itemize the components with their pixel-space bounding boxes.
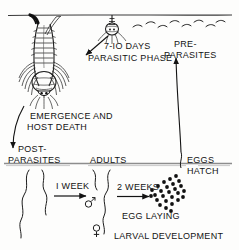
label-preparasites-line1: PRE- [174,40,197,49]
label-postparasites-line1: POST- [18,145,47,154]
post-parasite-worms [20,170,47,238]
life-cycle-diagram: 7-IO DAYS PARASITIC PHASE PRE- PARASITES… [0,0,239,250]
label-parasitic-phase: PARASITIC PHASE [88,54,172,63]
label-eggs-line2: HATCH [187,167,219,176]
label-preparasites-line2: PARASITES [164,51,217,60]
label-one-week: I WEEK [56,182,89,191]
label-emergence-line1: EMERGENCE AND [30,112,113,121]
label-adults: ADULTS [90,156,127,165]
emergence-arrow [13,106,24,148]
male-symbol-glyph [85,198,95,208]
label-duration-parasitic: 7-IO DAYS [104,42,151,51]
label-postparasites-line2: PARASITES [8,156,61,165]
label-emergence-line2: HOST DEATH [27,123,87,132]
label-larval-development: LARVAL DEVELOPMENT [114,232,223,241]
hatch-to-preparasite-arrow [176,58,182,168]
label-egg-laying: EGG LAYING [122,212,180,221]
egg-cluster [149,174,186,213]
host-surface-line [8,15,232,16]
attached-parasite-small [98,15,126,44]
adult-worms [93,170,110,234]
label-eggs-line1: EGGS [187,156,214,165]
label-two-weeks: 2 WEEKS [117,183,159,192]
parasitic-larva-illustration [19,15,69,109]
pre-parasite-swimmers [133,20,225,27]
female-symbol-glyph [93,225,99,237]
